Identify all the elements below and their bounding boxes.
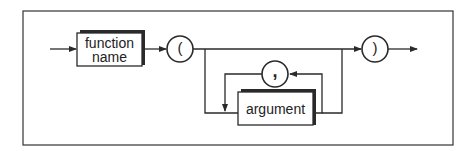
close-paren-label: ): [362, 41, 388, 55]
edge-argument-to-close: [322, 49, 342, 113]
syntax-diagram: [0, 0, 475, 151]
function-name-label: function name: [77, 36, 142, 64]
comma-label: ,: [262, 64, 288, 78]
edge-to-argument: [205, 49, 238, 113]
open-paren-label: (: [167, 41, 193, 55]
function-name-label-line1: function: [77, 36, 142, 50]
argument-label: argument: [238, 102, 313, 116]
function-name-label-line2: name: [77, 50, 142, 64]
